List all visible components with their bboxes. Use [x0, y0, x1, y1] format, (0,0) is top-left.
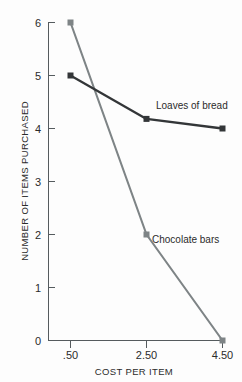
y-tick-label-4: 4: [35, 123, 41, 135]
y-tick-label-2: 2: [35, 229, 41, 241]
x-tick-label-0: .50: [63, 349, 78, 361]
line-chart: 0 1 2 3 4 5 6 .50 2.50 4.50 COST PER ITE…: [0, 0, 242, 382]
y-tick-label-6: 6: [35, 17, 41, 29]
series-annotation-chocolate-bars: Chocolate bars: [152, 234, 219, 245]
data-point-marker: [68, 20, 74, 26]
x-axis-ticks: .50 2.50 4.50: [63, 341, 233, 362]
y-tick-label-1: 1: [35, 282, 41, 294]
data-point-marker: [68, 73, 74, 79]
x-tick-label-1: 2.50: [136, 349, 157, 361]
y-axis-ticks: 0 1 2 3 4 5 6: [35, 17, 55, 347]
data-point-marker: [144, 116, 150, 122]
chart-container: 0 1 2 3 4 5 6 .50 2.50 4.50 COST PER ITE…: [0, 0, 242, 382]
y-axis-title: NUMBER OF ITEMS PURCHASED: [19, 101, 30, 261]
series-annotation-loaves-of-bread: Loaves of bread: [156, 100, 228, 111]
y-tick-label-0: 0: [35, 335, 41, 347]
data-point-marker: [144, 232, 150, 238]
y-tick-label-5: 5: [35, 70, 41, 82]
y-tick-label-3: 3: [35, 176, 41, 188]
series-chocolate-bars: [68, 20, 226, 344]
series-line-chocolate-bars: [71, 23, 223, 341]
data-point-marker: [220, 338, 226, 344]
x-axis-title: COST PER ITEM: [95, 366, 173, 377]
x-tick-label-2: 4.50: [212, 349, 233, 361]
data-point-marker: [220, 126, 226, 132]
axes-group: [49, 22, 223, 341]
